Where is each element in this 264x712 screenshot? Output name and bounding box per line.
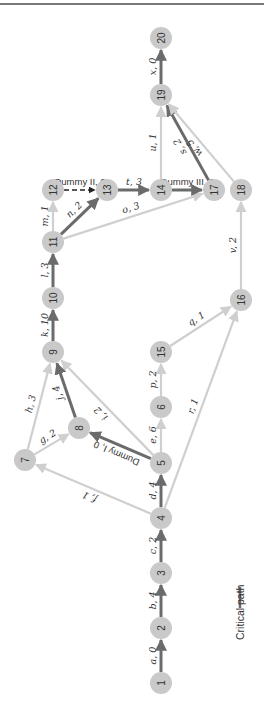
nodes: 1234567891011121314151617181920 [14, 27, 252, 694]
edges [28, 50, 241, 672]
node-label: 1 [156, 680, 167, 686]
node-2: 2 [150, 617, 172, 639]
node-label: 13 [102, 184, 113, 196]
node-label: 4 [156, 515, 167, 521]
edge-label: e, 6 [147, 426, 158, 444]
node-label: 11 [48, 236, 59, 247]
node-8: 8 [68, 417, 90, 439]
node-7: 7 [14, 449, 36, 471]
legend: Critical path [234, 584, 246, 640]
node-17: 17 [203, 179, 225, 201]
edge-4-7 [36, 465, 151, 514]
edge-label: t, 3 [126, 176, 142, 187]
edge-label: c, 2 [147, 537, 158, 554]
node-label: 17 [209, 184, 220, 196]
node-label: 7 [20, 457, 31, 463]
edge-label: u, 1 [147, 133, 158, 151]
node-label: 2 [156, 625, 167, 631]
edge-label: k, 10 [39, 313, 50, 337]
node-label: 6 [156, 404, 167, 410]
node-16: 16 [230, 289, 252, 311]
edge-label: o, 3 [121, 199, 141, 215]
node-13: 13 [96, 179, 118, 201]
node-label: 19 [156, 89, 167, 101]
node-19: 19 [150, 84, 172, 106]
edge-label: r, 1 [185, 397, 201, 415]
node-14: 14 [150, 179, 172, 201]
node-label: 18 [236, 184, 247, 196]
edge-label: m, 1 [39, 205, 50, 226]
node-18: 18 [230, 179, 252, 201]
node-12: 12 [42, 179, 64, 201]
node-label: 12 [48, 184, 59, 196]
node-10: 10 [42, 287, 64, 309]
node-label: 5 [156, 460, 167, 466]
node-label: 8 [74, 425, 85, 431]
edge-label: x, 0 [147, 58, 158, 75]
node-label: 14 [156, 184, 167, 196]
edge-label: d, 4 [147, 481, 158, 499]
node-9: 9 [42, 341, 64, 363]
node-label: 15 [156, 346, 167, 358]
edge-label: p, 2 [147, 370, 158, 388]
node-label: 16 [236, 294, 247, 306]
node-5: 5 [150, 452, 172, 474]
edge-4-16 [165, 311, 237, 507]
edge-label: h, 3 [23, 394, 38, 414]
node-6: 6 [150, 396, 172, 418]
node-20: 20 [150, 27, 172, 49]
node-label: 20 [156, 32, 167, 44]
node-label: 10 [48, 292, 59, 304]
edge-label: a, 0 [147, 647, 158, 665]
node-11: 11 [42, 231, 64, 253]
edge-label: l, 3 [39, 262, 50, 277]
critical-path-network-diagram: a, 0b, 4c, 2d, 4e, 6f, 1g, 2h, 3i, 2Dumm… [0, 0, 264, 712]
edge-label: b, 4 [147, 591, 158, 609]
node-label: 9 [48, 349, 59, 355]
node-1: 1 [150, 672, 172, 694]
legend-label: Critical path [234, 584, 246, 640]
node-4: 4 [150, 507, 172, 529]
node-15: 15 [150, 341, 172, 363]
node-label: 3 [156, 570, 167, 576]
node-3: 3 [150, 562, 172, 584]
edge-label: v, 2 [227, 237, 238, 253]
